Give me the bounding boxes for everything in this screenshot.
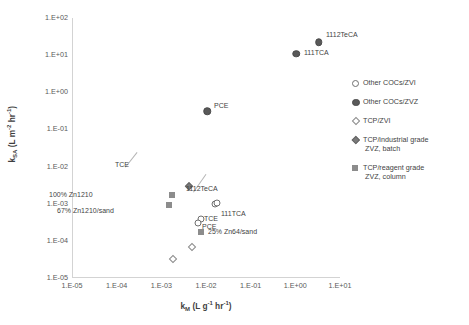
legend-item-other-cocs-zvz[interactable]: Other COCs/ZVZ [352,97,469,106]
label-25-zn64-sand: 25% Zn64/sand [208,228,257,236]
y-tick-label: 1.E+00 [22,88,68,96]
y-tick-label: 1.E-01 [22,125,68,133]
plot-area: 1112TeCA 111TCA PCE TCE 1112TeCA 111TCA … [72,18,340,278]
label-111tca-zvz: 111TCA [304,49,329,57]
x-axis-title: kM (L g-1 hr-1) [72,300,340,312]
x-axis-tick-labels: 1.E-05 1.E-04 1.E-03 1.E-02 1.E-01 1.E+0… [72,282,340,294]
y-axis-unit-sup2: -1 [6,109,12,114]
data-point-111tca-zvz [293,50,301,58]
y-tick-label: 1.E-04 [22,237,68,245]
legend-label: TCP/reagent grade [363,163,469,172]
legend-marker-diamond-open-icon [352,117,360,125]
x-tick-label: 1.E+01 [310,282,370,290]
legend-item-other-cocs-zvi[interactable]: Other COCs/ZVI [352,78,469,87]
legend-label: TCP/ZVI [363,116,469,125]
data-point-tcp-zvi-1 [188,243,196,251]
chart-legend: Other COCs/ZVI Other COCs/ZVZ TCP/ZVI TC… [352,78,469,191]
y-axis-unit-pre: (L m [7,130,17,150]
y-tick-label: 1.E-02 [22,163,68,171]
y-axis-title-k: k [7,158,17,163]
data-point-pce-zvi [195,220,202,227]
label-100-zn1210: 100% Zn1210 [49,191,93,199]
data-point-111tca-zvi [214,199,221,206]
legend-marker-circle-filled-icon [352,99,360,107]
y-axis-unit-post: ) [7,106,17,109]
y-tick-label: 1.E+01 [22,51,68,59]
y-axis-title: kSA (L m-2 hr-1) [6,74,18,194]
legend-label-line2: ZVZ, batch [363,144,469,153]
data-point-67-zn1210-sand [166,202,172,208]
data-point-1112teca-zvz [315,39,323,47]
y-axis-unit-sup1: -2 [6,125,12,130]
label-67-zn1210-sand: 67% Zn1210/sand [57,207,114,215]
data-point-100-zn1210 [169,192,175,198]
label-tce-zvi: TCE [204,215,218,223]
y-axis-title-sub: SA [12,150,18,158]
y-axis-unit-mid: hr [7,114,17,125]
label-1112teca-zvi: 1112TeCA [186,185,218,193]
data-point-tcp-zvi-2 [169,254,177,262]
x-axis-unit-post: ) [229,301,232,311]
legend-marker-circle-open-icon [352,80,359,87]
label-tce-batch: TCE [115,161,129,169]
x-axis-unit-mid: hr [213,301,224,311]
legend-item-tcp-reagent-zvz-column[interactable]: TCP/reagent grade ZVZ, column [352,163,469,181]
legend-label-line2: ZVZ, column [363,172,469,181]
legend-item-tcp-industrial-zvz-batch[interactable]: TCP/industrial grade ZVZ, batch [352,135,469,153]
label-111tca-zvi: 111TCA [221,210,246,218]
legend-marker-square-filled-icon [352,165,358,171]
legend-marker-diamond-filled-icon [352,136,360,144]
y-tick-label: 1.E+02 [22,14,68,22]
label-pce-zvz: PCE [214,102,228,110]
legend-label: Other COCs/ZVI [363,78,469,87]
x-axis-unit-pre: (L g [190,301,207,311]
legend-label: TCP/industrial grade [363,135,469,144]
scatter-chart: 1.E+02 1.E+01 1.E+00 1.E-01 1.E-02 1.E-0… [0,0,469,325]
legend-label: Other COCs/ZVZ [363,97,469,106]
data-point-pce-zvz [203,107,211,115]
label-1112teca-zvz: 1112TeCA [326,31,358,39]
legend-item-tcp-zvi[interactable]: TCP/ZVI [352,116,469,125]
